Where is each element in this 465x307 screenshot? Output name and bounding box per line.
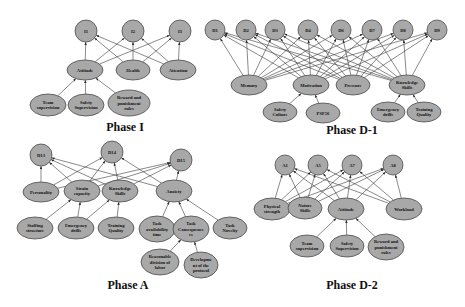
edge-arrow bbox=[141, 38, 168, 61]
edge-arrow bbox=[94, 38, 123, 62]
node-label: I1 bbox=[84, 29, 89, 34]
node-label: Culture bbox=[272, 112, 287, 117]
node-d8: D8 bbox=[393, 20, 413, 40]
edge-arrow bbox=[87, 200, 110, 219]
edge-arrow bbox=[163, 202, 170, 217]
node-attitude: Attitude bbox=[67, 60, 103, 80]
edge-arrow bbox=[179, 42, 180, 60]
node-task-novelty: TaskNovelty bbox=[213, 217, 247, 239]
bayesian-network-figure: I1I2I3AttitudeHealthAttentionTeamsupervi… bbox=[0, 0, 465, 307]
node-label: supervision bbox=[296, 246, 319, 251]
node-label: A7 bbox=[349, 163, 355, 168]
node-d1: D1 bbox=[205, 20, 225, 40]
edge-arrow bbox=[347, 175, 350, 198]
edge-arrow bbox=[258, 37, 300, 77]
node-label: Quality bbox=[417, 112, 433, 117]
node-label: Skills bbox=[300, 208, 311, 213]
node-label: D8 bbox=[400, 28, 406, 33]
node-physical-strength: Physicalstrength bbox=[254, 198, 290, 220]
node-label: Personality bbox=[30, 190, 53, 195]
edge-arrow bbox=[404, 40, 407, 75]
edge-arrow bbox=[315, 95, 319, 104]
edge-arrow bbox=[413, 94, 418, 102]
edge-arrow bbox=[289, 174, 300, 197]
edge-arrow bbox=[117, 202, 119, 217]
node-label: A1 bbox=[282, 163, 288, 168]
node-pressure: Pressure bbox=[336, 75, 370, 95]
node-label: Skills bbox=[115, 191, 126, 196]
node-label: Pressure bbox=[345, 83, 362, 88]
node-team-supervision: Teamsupervision bbox=[290, 235, 324, 257]
node-emergency-drills: Emergencydrills bbox=[371, 102, 405, 122]
edge-arrow bbox=[395, 175, 401, 198]
node-a1: A1 bbox=[275, 155, 295, 175]
node-label: D2 bbox=[243, 28, 249, 33]
node-label: Anxiety bbox=[166, 189, 182, 194]
node-nature-skills: NatureSkills bbox=[288, 197, 322, 219]
node-developme-nt-of-the-protocol: Development of theprotocol bbox=[184, 252, 218, 278]
node-motivation: Motivation bbox=[293, 75, 329, 95]
edge-arrow bbox=[395, 94, 401, 102]
node-safety-culture: SafetyCulture bbox=[263, 102, 297, 122]
node-attitude: Attitude bbox=[328, 198, 364, 220]
edge-arrow bbox=[96, 78, 116, 93]
node-d2: D2 bbox=[236, 20, 256, 40]
phase-title: Phase D-1 bbox=[326, 123, 378, 137]
edge-arrow bbox=[283, 36, 342, 78]
node-a7: A7 bbox=[342, 155, 362, 175]
node-label: A5 bbox=[315, 163, 321, 168]
node-label: protocol bbox=[193, 268, 210, 273]
edge-arrow bbox=[356, 218, 375, 236]
node-d9: D9 bbox=[427, 20, 447, 40]
edge-arrow bbox=[46, 200, 71, 220]
node-label: D13 bbox=[37, 153, 46, 158]
node-label: Motivation bbox=[300, 83, 322, 88]
node-label: Workload bbox=[394, 207, 414, 212]
edge-arrow bbox=[195, 242, 198, 253]
node-knowledge-skills: KnowledgeSkills bbox=[102, 180, 138, 202]
edge-arrow bbox=[360, 171, 394, 200]
edge-arrow bbox=[275, 175, 282, 199]
edge-arrow bbox=[143, 38, 172, 62]
edge-arrow bbox=[290, 93, 302, 103]
node-label: labor bbox=[155, 265, 165, 270]
edge-arrow bbox=[224, 35, 299, 78]
node-reasonable-division-of-labor: Reasonabledivision oflabor bbox=[141, 249, 179, 275]
node-task-availability-time: Taskavailabilitytime bbox=[139, 216, 175, 242]
node-attention: Attention bbox=[160, 60, 196, 80]
node-label: Supervision bbox=[335, 246, 359, 251]
node-reward-and-punishment-rules: Reward andpunishmentrules bbox=[108, 90, 150, 116]
node-label: time bbox=[153, 232, 162, 237]
node-d4: D4 bbox=[298, 20, 318, 40]
node-label: D3 bbox=[272, 28, 278, 33]
node-reward-and-punishment-rules: Reward andpunishmentrules bbox=[368, 234, 404, 260]
edge-arrow bbox=[58, 79, 76, 96]
node-label: Attitude bbox=[338, 207, 354, 212]
node-label: capacity bbox=[74, 191, 91, 196]
node-label: D1 bbox=[212, 28, 218, 33]
node-label: drills bbox=[71, 228, 81, 233]
node-i2: I2 bbox=[122, 20, 144, 42]
edge-arrow bbox=[179, 202, 186, 217]
node-psf56: PSF56 bbox=[306, 103, 340, 123]
phase-i-diagram: I1I2I3AttitudeHealthAttentionTeamsupervi… bbox=[30, 20, 196, 134]
edge-arrow bbox=[247, 40, 249, 75]
node-label: structure bbox=[26, 228, 44, 233]
node-safety-supervision: SafetySupervision bbox=[68, 94, 104, 116]
node-label: D7 bbox=[369, 28, 375, 33]
node-label: I2 bbox=[131, 29, 136, 34]
node-label: D4 bbox=[305, 28, 311, 33]
node-label: rules bbox=[381, 250, 391, 255]
node-label: Quality bbox=[109, 228, 125, 233]
node-d15: D15 bbox=[170, 149, 192, 171]
node-safety-supervision: SafetySupervision bbox=[330, 235, 364, 257]
node-label: rules bbox=[124, 106, 134, 111]
node-label: drills bbox=[383, 112, 393, 117]
node-knowledge-skills: KnowledgeSkills bbox=[389, 75, 425, 95]
node-anxiety: Anxiety bbox=[156, 180, 192, 202]
node-training-quality: TrainingQuality bbox=[98, 217, 134, 239]
node-d14: D14 bbox=[101, 141, 123, 163]
node-strain-capacity: Straincapacity bbox=[64, 180, 100, 202]
node-label: strength bbox=[264, 209, 281, 214]
node-label: Supervision bbox=[74, 105, 98, 110]
